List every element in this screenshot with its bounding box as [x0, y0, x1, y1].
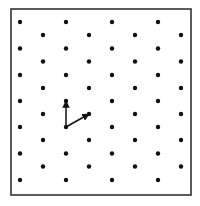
lattice-point — [64, 46, 68, 50]
lattice-point — [41, 33, 45, 37]
lattice-point — [87, 33, 91, 37]
lattice-point — [156, 99, 160, 103]
lattice-point — [179, 138, 183, 142]
lattice-point — [133, 86, 137, 90]
lattice-point — [18, 125, 22, 129]
lattice-point — [179, 33, 183, 37]
frame-border — [11, 9, 191, 195]
lattice-point — [110, 151, 114, 155]
lattice-point — [156, 73, 160, 77]
lattice-point — [179, 86, 183, 90]
lattice-points — [18, 20, 183, 182]
lattice-point — [156, 46, 160, 50]
lattice-point — [64, 151, 68, 155]
lattice-point — [87, 164, 91, 168]
lattice-point — [18, 20, 22, 24]
lattice-point — [156, 20, 160, 24]
lattice-point — [179, 112, 183, 116]
lattice-point — [41, 86, 45, 90]
lattice-point — [110, 99, 114, 103]
lattice-point — [133, 59, 137, 63]
lattice-point — [133, 33, 137, 37]
lattice-point — [87, 86, 91, 90]
lattice-point — [41, 112, 45, 116]
lattice-point — [18, 99, 22, 103]
lattice-point — [18, 151, 22, 155]
lattice-point — [133, 138, 137, 142]
lattice-point — [156, 125, 160, 129]
lattice-point — [87, 138, 91, 142]
lattice-point — [133, 164, 137, 168]
lattice-point — [110, 73, 114, 77]
lattice-point — [41, 59, 45, 63]
lattice-point — [110, 20, 114, 24]
lattice-point — [179, 164, 183, 168]
lattice-point — [110, 46, 114, 50]
lattice-point — [156, 151, 160, 155]
vector-a2-arrow — [66, 114, 89, 127]
lattice-point — [156, 178, 160, 182]
lattice-point — [179, 59, 183, 63]
lattice-diagram — [0, 0, 200, 206]
lattice-point — [64, 178, 68, 182]
lattice-point — [18, 178, 22, 182]
lattice-point — [41, 164, 45, 168]
lattice-point — [87, 59, 91, 63]
basis-vectors — [66, 101, 89, 127]
lattice-point — [41, 138, 45, 142]
lattice-point — [18, 46, 22, 50]
lattice-point — [64, 20, 68, 24]
lattice-point — [133, 112, 137, 116]
lattice-point — [110, 178, 114, 182]
lattice-point — [64, 73, 68, 77]
lattice-point — [18, 73, 22, 77]
lattice-point — [110, 125, 114, 129]
